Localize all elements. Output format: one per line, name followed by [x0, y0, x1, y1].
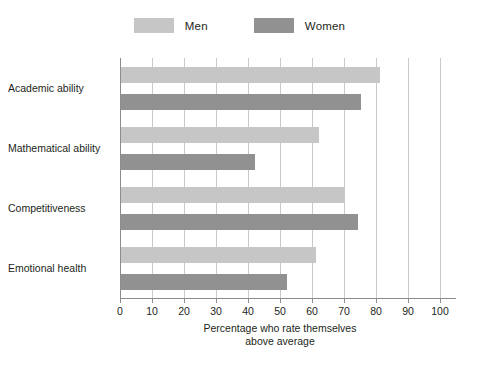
gridline — [408, 58, 409, 298]
bar-women-0 — [121, 94, 361, 110]
x-axis-tick — [376, 298, 377, 303]
chart-legend: Men Women — [0, 18, 479, 33]
bar-men-2 — [121, 187, 345, 203]
gridline — [376, 58, 377, 298]
bar-women-3 — [121, 274, 287, 290]
gridline — [440, 58, 441, 298]
bar-women-2 — [121, 214, 358, 230]
x-axis-tick — [280, 298, 281, 303]
x-axis-tick-label: 70 — [338, 305, 350, 317]
x-axis-tick-label: 10 — [146, 305, 158, 317]
x-axis-title-line-1: Percentage who rate themselves — [120, 322, 440, 335]
legend-entry-men: Men — [134, 18, 208, 33]
legend-swatch-men — [134, 18, 174, 33]
legend-label-women: Women — [305, 20, 345, 32]
legend-entry-women: Women — [254, 18, 345, 33]
x-axis-tick-label: 80 — [370, 305, 382, 317]
x-axis-title-line-2: above average — [120, 335, 440, 348]
x-axis-tick — [152, 298, 153, 303]
category-label: Mathematical ability — [8, 142, 120, 154]
x-axis-tick — [216, 298, 217, 303]
x-axis-line — [120, 298, 456, 299]
category-label: Competitiveness — [8, 202, 120, 214]
x-axis-tick-label: 20 — [178, 305, 190, 317]
x-axis-tick-label: 0 — [117, 305, 123, 317]
x-axis-title: Percentage who rate themselves above ave… — [120, 322, 440, 348]
x-axis-tick-label: 100 — [431, 305, 449, 317]
category-label: Emotional health — [8, 262, 120, 274]
x-axis-tick-label: 90 — [402, 305, 414, 317]
legend-swatch-women — [254, 18, 294, 33]
x-axis-tick-label: 50 — [274, 305, 286, 317]
x-axis-tick — [440, 298, 441, 303]
plot-area: 0102030405060708090100 — [120, 58, 440, 298]
bar-men-3 — [121, 247, 316, 263]
x-axis-tick — [120, 298, 121, 303]
bar-women-1 — [121, 154, 255, 170]
x-axis-tick — [248, 298, 249, 303]
x-axis-tick-label: 40 — [242, 305, 254, 317]
category-label: Academic ability — [8, 82, 120, 94]
bar-chart: Men Women Academic ability Mathematical … — [0, 0, 479, 366]
x-axis-tick — [312, 298, 313, 303]
x-axis-tick — [344, 298, 345, 303]
bar-men-1 — [121, 127, 319, 143]
x-axis-tick — [184, 298, 185, 303]
bar-men-0 — [121, 67, 380, 83]
category-axis-labels: Academic ability Mathematical ability Co… — [8, 58, 120, 298]
legend-label-men: Men — [185, 20, 208, 32]
x-axis-tick-label: 30 — [210, 305, 222, 317]
x-axis-tick — [408, 298, 409, 303]
x-axis-tick-label: 60 — [306, 305, 318, 317]
